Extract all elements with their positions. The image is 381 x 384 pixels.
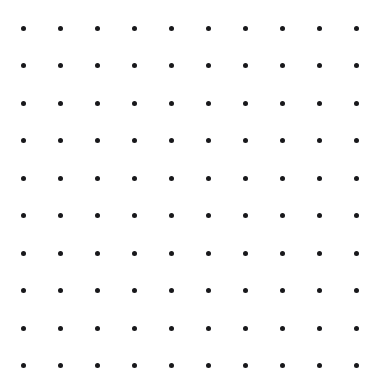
- grid-dot: [317, 288, 322, 293]
- grid-dot: [21, 26, 26, 31]
- grid-dot: [280, 101, 285, 106]
- grid-dot: [354, 26, 359, 31]
- grid-dot: [21, 326, 26, 331]
- grid-dot: [95, 26, 100, 31]
- grid-dot: [95, 251, 100, 256]
- grid-dot: [21, 63, 26, 68]
- grid-dot: [95, 63, 100, 68]
- grid-dot: [169, 363, 174, 368]
- grid-dot: [317, 326, 322, 331]
- grid-dot: [21, 363, 26, 368]
- grid-dot: [243, 138, 248, 143]
- grid-dot: [243, 176, 248, 181]
- grid-dot: [58, 288, 63, 293]
- grid-dot: [243, 326, 248, 331]
- grid-dot: [280, 176, 285, 181]
- grid-dot: [58, 63, 63, 68]
- grid-dot: [58, 363, 63, 368]
- grid-dot: [21, 176, 26, 181]
- grid-dot: [95, 176, 100, 181]
- grid-dot: [58, 326, 63, 331]
- grid-dot: [132, 363, 137, 368]
- grid-dot: [58, 101, 63, 106]
- grid-dot: [95, 363, 100, 368]
- grid-dot: [58, 251, 63, 256]
- grid-dot: [21, 101, 26, 106]
- grid-dot: [206, 26, 211, 31]
- grid-dot: [243, 26, 248, 31]
- grid-dot: [243, 101, 248, 106]
- grid-dot: [317, 26, 322, 31]
- grid-dot: [317, 63, 322, 68]
- grid-dot: [169, 326, 174, 331]
- grid-dot: [95, 288, 100, 293]
- grid-dot: [95, 138, 100, 143]
- grid-dot: [132, 251, 137, 256]
- grid-dot: [132, 326, 137, 331]
- grid-dot: [169, 138, 174, 143]
- grid-dot: [317, 251, 322, 256]
- grid-dot: [206, 101, 211, 106]
- grid-dot: [317, 176, 322, 181]
- grid-dot: [169, 251, 174, 256]
- grid-dot: [317, 213, 322, 218]
- grid-dot: [354, 251, 359, 256]
- grid-dot: [354, 326, 359, 331]
- grid-dot: [280, 326, 285, 331]
- grid-dot: [58, 176, 63, 181]
- grid-dot: [95, 213, 100, 218]
- grid-dot: [206, 63, 211, 68]
- grid-dot: [95, 326, 100, 331]
- grid-dot: [354, 138, 359, 143]
- grid-dot: [354, 288, 359, 293]
- grid-dot: [354, 63, 359, 68]
- grid-dot: [21, 138, 26, 143]
- grid-dot: [280, 363, 285, 368]
- grid-dot: [206, 176, 211, 181]
- grid-dot: [132, 288, 137, 293]
- grid-dot: [354, 213, 359, 218]
- grid-dot: [169, 213, 174, 218]
- grid-dot: [21, 288, 26, 293]
- grid-dot: [58, 213, 63, 218]
- grid-dot: [206, 288, 211, 293]
- grid-dot: [280, 213, 285, 218]
- grid-dot: [58, 26, 63, 31]
- grid-dot: [21, 251, 26, 256]
- grid-dot: [280, 251, 285, 256]
- grid-dot: [169, 288, 174, 293]
- grid-dot: [280, 63, 285, 68]
- grid-dot: [206, 326, 211, 331]
- grid-dot: [95, 101, 100, 106]
- grid-dot: [206, 138, 211, 143]
- grid-dot: [206, 363, 211, 368]
- grid-dot: [243, 251, 248, 256]
- grid-dot: [132, 26, 137, 31]
- grid-dot: [169, 26, 174, 31]
- grid-dot: [21, 213, 26, 218]
- grid-dot: [58, 138, 63, 143]
- grid-dot: [280, 138, 285, 143]
- grid-dot: [317, 138, 322, 143]
- grid-dot: [206, 213, 211, 218]
- dot-grid-canvas: [0, 0, 381, 384]
- grid-dot: [132, 101, 137, 106]
- grid-dot: [243, 63, 248, 68]
- grid-dot: [132, 213, 137, 218]
- grid-dot: [280, 288, 285, 293]
- grid-dot: [317, 363, 322, 368]
- grid-dot: [132, 138, 137, 143]
- grid-dot: [169, 176, 174, 181]
- grid-dot: [169, 101, 174, 106]
- grid-dot: [243, 363, 248, 368]
- grid-dot: [280, 26, 285, 31]
- grid-dot: [169, 63, 174, 68]
- grid-dot: [317, 101, 322, 106]
- grid-dot: [243, 213, 248, 218]
- grid-dot: [132, 63, 137, 68]
- grid-dot: [354, 101, 359, 106]
- grid-dot: [206, 251, 211, 256]
- grid-dot: [354, 363, 359, 368]
- grid-dot: [354, 176, 359, 181]
- grid-dot: [243, 288, 248, 293]
